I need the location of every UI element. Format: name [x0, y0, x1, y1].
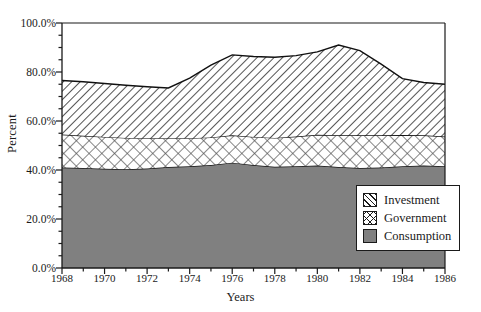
legend-label-government: Government	[384, 211, 446, 226]
area-chart: Percent 0.0%20.0%40.0%60.0%80.0%100.0% 1…	[0, 0, 481, 312]
band-government	[62, 134, 445, 169]
x-tick-label: 1976	[221, 272, 243, 284]
x-tick-label: 1978	[264, 272, 286, 284]
investment-swatch-icon	[363, 193, 377, 207]
x-tick-label: 1986	[434, 272, 456, 284]
legend-item-investment: Investment	[363, 191, 451, 209]
x-tick-label: 1982	[349, 272, 371, 284]
legend-label-investment: Investment	[384, 193, 440, 208]
x-tick-label: 1984	[391, 272, 413, 284]
x-axis-title: Years	[0, 290, 481, 305]
legend-item-government: Government	[363, 209, 451, 227]
x-tick-label: 1968	[51, 272, 73, 284]
band-investment	[62, 45, 445, 138]
legend-item-consumption: Consumption	[363, 227, 451, 245]
consumption-swatch-icon	[363, 229, 377, 243]
x-tick-label: 1974	[179, 272, 201, 284]
government-swatch-icon	[363, 211, 377, 225]
x-tick-label: 1980	[306, 272, 328, 284]
legend: Investment Government Consumption	[356, 185, 460, 251]
x-tick-label: 1972	[136, 272, 158, 284]
legend-label-consumption: Consumption	[384, 229, 451, 244]
plot-area	[0, 0, 481, 312]
x-tick-label: 1970	[94, 272, 116, 284]
